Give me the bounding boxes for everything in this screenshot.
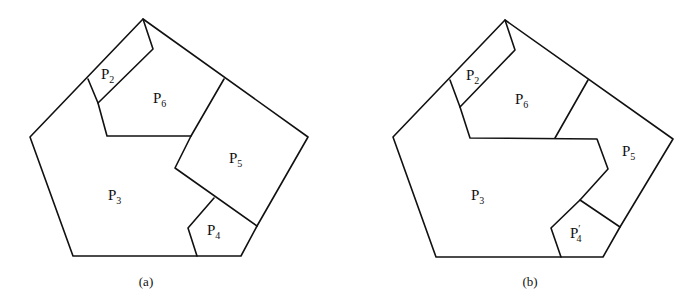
p6-p5-divider-b xyxy=(555,80,588,138)
label-p3-b: P3 xyxy=(471,187,484,206)
label-p3-a: P3 xyxy=(108,187,121,206)
pentagon-partition-diagram: P2 P6 P5 P3 P4 (a) P2 P6 P5 P3 P′4 (b) xyxy=(0,0,697,308)
p2-boundary-b xyxy=(450,20,515,107)
label-p2-a: P2 xyxy=(101,66,114,85)
label-p6-a: P6 xyxy=(153,90,166,109)
p5-boundary-a xyxy=(175,79,257,226)
label-p2-b: P2 xyxy=(466,67,479,86)
label-p5-b: P5 xyxy=(622,143,635,162)
caption-a: (a) xyxy=(139,274,153,289)
figure-b: P2 P6 P5 P3 P′4 (b) xyxy=(393,20,673,289)
p2-boundary-a xyxy=(88,19,153,103)
label-p6-b: P6 xyxy=(515,91,528,110)
outer-pentagon-a xyxy=(30,19,308,256)
p4prime-p5-divider-b xyxy=(580,200,620,227)
p6-p3-boundary-b xyxy=(460,107,608,257)
figure-a: P2 P6 P5 P3 P4 (a) xyxy=(30,19,308,289)
p6-p3-boundary-a xyxy=(98,103,191,136)
caption-b: (b) xyxy=(522,274,537,289)
label-p5-a: P5 xyxy=(229,150,242,169)
label-p4-a: P4 xyxy=(207,222,220,241)
label-p4prime-b: P′4 xyxy=(570,223,582,244)
